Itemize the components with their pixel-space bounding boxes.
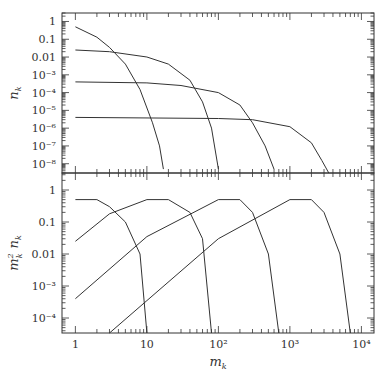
top-curve-1 bbox=[75, 27, 163, 169]
y-tick-label: 1 bbox=[49, 184, 56, 197]
x-tick-label: 10² bbox=[209, 338, 227, 351]
y-tick-label: 0.1 bbox=[39, 33, 57, 46]
bottom-curve-2 bbox=[75, 200, 211, 333]
y-tick-label: 10⁻³ bbox=[32, 280, 56, 293]
bottom-frame bbox=[62, 173, 374, 333]
bottom-curve-1 bbox=[75, 200, 146, 333]
figure: 10.10.0110⁻³10⁻⁴10⁻⁵10⁻⁶10⁻⁷10⁻⁸ 10.10.0… bbox=[0, 0, 384, 373]
bottom-y-axis-title: m2knk bbox=[6, 235, 24, 271]
y-tick-label: 0.1 bbox=[39, 216, 57, 229]
top-curve-2 bbox=[75, 50, 218, 169]
x-axis-title: mk bbox=[209, 354, 226, 371]
bottom-panel-plot: 10.10.0110⁻³10⁻⁴ bbox=[32, 173, 375, 333]
y-tick-label: 10⁻⁷ bbox=[32, 140, 57, 153]
top-y-axis-title: nk bbox=[6, 86, 23, 99]
axis-labels: 11010²10³10⁴mknkm2knk bbox=[6, 86, 371, 371]
y-tick-label: 0.01 bbox=[32, 51, 57, 64]
y-tick-label: 10⁻⁴ bbox=[32, 87, 57, 100]
bottom-curve-3 bbox=[75, 200, 278, 333]
y-tick-label: 10⁻⁸ bbox=[32, 158, 57, 171]
y-tick-label: 10⁻³ bbox=[32, 69, 56, 82]
top-curve-4 bbox=[75, 117, 328, 173]
y-tick-label: 1 bbox=[49, 15, 56, 28]
top-panel-plot: 10.10.0110⁻³10⁻⁴10⁻⁵10⁻⁶10⁻⁷10⁻⁸ bbox=[32, 13, 375, 173]
x-tick-label: 10 bbox=[140, 338, 154, 351]
y-tick-label: 10⁻⁶ bbox=[32, 122, 57, 135]
y-tick-label: 10⁻⁴ bbox=[32, 312, 57, 325]
x-tick-label: 1 bbox=[72, 338, 79, 351]
x-tick-label: 10³ bbox=[281, 338, 299, 351]
x-tick-label: 10⁴ bbox=[352, 338, 371, 351]
y-tick-label: 10⁻⁵ bbox=[32, 104, 56, 117]
top-curve-3 bbox=[75, 82, 274, 169]
y-tick-label: 0.01 bbox=[32, 248, 57, 261]
